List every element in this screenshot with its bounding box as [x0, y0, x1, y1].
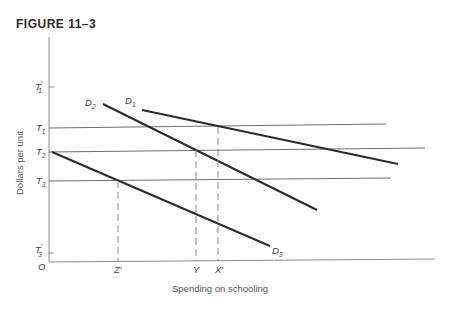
line-t3: [49, 178, 391, 181]
label-t2: T2: [36, 146, 46, 159]
label-x-prime: X′: [214, 264, 224, 275]
label-d1: D1: [125, 95, 136, 108]
x-axis-title: Spending on schooling: [172, 283, 268, 294]
label-t1-prime: T′1: [35, 80, 43, 94]
label-z-prime: Z′: [113, 264, 123, 275]
curve-d3: [52, 152, 270, 246]
label-d2: D2: [85, 97, 96, 110]
curve-d1: [142, 110, 398, 164]
x-axis: [49, 259, 435, 262]
label-t1: T1: [36, 122, 46, 135]
curve-d2: [103, 104, 317, 210]
y-axis-title: Dollars per unit: [14, 131, 25, 195]
label-d3: D3: [272, 245, 283, 258]
label-t3: T3: [36, 175, 46, 188]
line-t2: [49, 148, 425, 152]
label-t3-prime: T′3: [35, 243, 43, 258]
label-y: Y: [193, 264, 200, 275]
label-origin: O: [38, 261, 46, 272]
diagram-canvas: T′1 T1 T2 T3 T′3 O Z′ Y X′ D2 D1 D3 Doll…: [0, 0, 450, 309]
